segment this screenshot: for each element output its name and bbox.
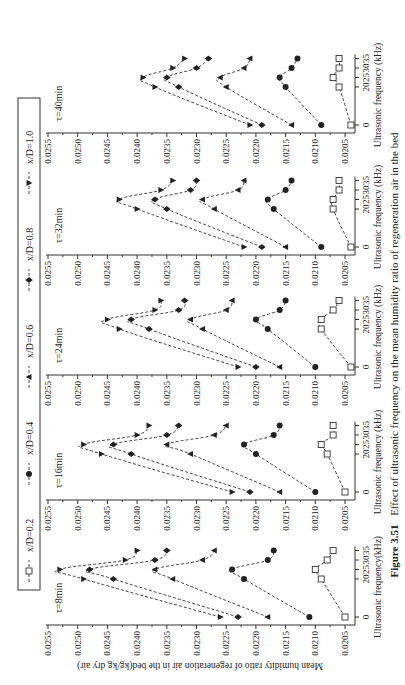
filled-circle-marker-icon [265,326,271,332]
legend-item: x/D=1.0 [24,131,35,194]
y-tick-label: 0.0235 [162,631,172,656]
filled-diamond-marker-icon [175,84,183,90]
series-curve [200,181,286,248]
filled-diamond-marker-icon [145,326,153,332]
open-square-marker-icon [318,576,324,582]
caption-text: Effect of ultrasonic frequency on the me… [388,132,400,516]
series-04 [253,298,318,371]
legend-label: x/D=0.4 [24,422,35,455]
open-square-marker-icon [336,84,342,90]
filled-triangle-up-marker-icon [217,75,223,81]
filled-circle-marker-icon [312,489,318,495]
x-tick-label: 30 [361,185,371,195]
y-tick-label: 0.0230 [192,261,202,286]
filled-diamond-marker-icon [187,187,195,193]
panel-8min: 0.02550.02500.02450.02400.02350.02300.02… [43,536,384,656]
filled-triangle-down-marker-icon [81,442,87,448]
filled-triangle-up-marker-icon [187,317,193,323]
y-tick-label: 0.0240 [132,506,142,531]
y-tick-label: 0.0205 [340,631,350,656]
filled-circle-marker-icon [294,56,300,62]
x-tick-label: 35 [361,54,371,64]
panel-title: τ=32min [53,208,64,243]
series-10 [101,298,242,371]
multi-panel-line-chart: x/D=0.2x/D=0.4x/D=0.6x/D=0.8x/D=1.0 0.02… [0,0,405,685]
filled-diamond-marker-icon [181,298,189,304]
x-tick-label: 0 [361,122,371,127]
y-tick-label: 0.0245 [102,381,112,406]
y-tick-label: 0.0220 [251,631,261,656]
x-tick-label: 20 [361,324,371,334]
y-tick-label: 0.0220 [251,506,261,531]
series-curve [188,301,280,368]
y-tick-label: 0.0215 [281,506,291,531]
y-tick-label: 0.0210 [310,631,320,656]
filled-triangle-down-marker-icon [117,326,123,332]
series-02 [330,178,354,251]
series-10 [116,178,247,251]
series-08 [85,548,241,621]
y-tick-label: 0.0235 [162,381,172,406]
legend-label: x/D=1.0 [24,131,35,164]
series-curve [55,551,220,618]
y-tick-label: 0.0250 [73,381,83,406]
legend-label: x/D=0.8 [24,228,35,261]
y-tick-label: 0.0235 [162,506,172,531]
filled-triangle-down-marker-icon [81,576,87,582]
y-tick-label: 0.0215 [281,139,291,164]
filled-triangle-up-marker-icon [288,122,294,128]
panel-40min: 0.02550.02500.02450.02400.02350.02300.02… [43,43,384,164]
open-square-marker-icon [330,75,336,81]
open-square-marker-icon [330,206,336,212]
x-tick-label: 30 [361,63,371,73]
series-08 [127,298,259,371]
x-tick-label: 25 [361,315,371,325]
series-08 [151,178,266,251]
y-tick-label: 0.0210 [310,381,320,406]
filled-circle-marker-icon [265,197,271,203]
filled-triangle-down-marker-icon [242,244,248,250]
series-curve [116,181,244,248]
open-square-marker-icon [348,122,354,128]
x-tick-label: 25 [361,195,371,205]
open-square-marker-icon [348,244,354,250]
panel-title: τ=24min [53,328,64,363]
y-tick-label: 0.0240 [132,261,142,286]
y-tick-label: 0.0240 [132,139,142,164]
y-tick-label: 0.0245 [102,506,112,531]
open-square-marker-icon [336,298,342,304]
x-axis-title: Ultrasonic frequency (kHz) [373,43,384,147]
series-08 [109,423,254,496]
y-tick-label: 0.0225 [221,261,231,286]
filled-circle-marker-icon [241,442,247,448]
filled-diamond-marker-icon [151,197,159,203]
y-tick-label: 0.0245 [102,139,112,164]
series-02 [330,56,354,129]
filled-triangle-down-marker-icon [27,180,33,186]
filled-diamond-marker-icon [234,614,242,620]
filled-diamond-marker-icon [151,557,159,563]
filled-diamond-marker-icon [110,442,118,448]
open-square-marker-icon [330,197,336,203]
filled-diamond-marker-icon [252,364,260,370]
chart-panels: 0.02550.02500.02450.02400.02350.02300.02… [43,43,384,656]
y-tick-label: 0.0225 [221,381,231,406]
filled-triangle-up-marker-icon [169,576,175,582]
filled-triangle-down-marker-icon [158,187,164,193]
filled-triangle-down-marker-icon [170,65,176,71]
filled-diamond-marker-icon [205,56,213,62]
y-tick-label: 0.0225 [221,631,231,656]
filled-diamond-marker-icon [193,65,201,71]
legend-label: x/D=0.2 [24,519,35,552]
x-tick-label: 30 [361,430,371,440]
filled-circle-marker-icon [271,432,277,438]
x-tick-label: 25 [361,565,371,575]
filled-triangle-down-marker-icon [182,56,188,62]
open-square-marker-icon [324,557,330,563]
filled-circle-marker-icon [283,84,289,90]
filled-triangle-up-marker-icon [223,423,229,429]
filled-diamond-marker-icon [163,206,171,212]
filled-triangle-down-marker-icon [236,364,242,370]
y-tick-label: 0.0230 [192,381,202,406]
filled-triangle-down-marker-icon [117,197,123,203]
